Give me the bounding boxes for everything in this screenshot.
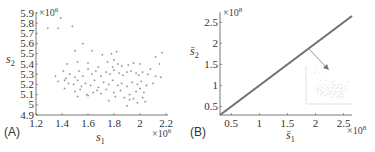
data-point <box>161 52 163 54</box>
data-point <box>127 64 129 66</box>
y-tick-label: 1 <box>213 79 219 91</box>
data-point <box>109 73 111 75</box>
data-point <box>57 27 59 29</box>
panel-b-x-label: s̄1 <box>286 128 295 144</box>
data-point <box>133 62 135 64</box>
data-point <box>120 90 122 92</box>
data-point <box>140 80 142 82</box>
inset-magnified-scatter <box>306 66 352 104</box>
y-tick-label: 0.5 <box>204 100 218 112</box>
data-point <box>144 101 146 103</box>
panel-a-scatter: 4.955.15.25.35.45.55.65.75.85.9 1.21.41.… <box>4 6 173 146</box>
data-point <box>77 61 79 63</box>
figure: 4.955.15.25.35.45.55.65.75.85.9 1.21.41.… <box>0 0 375 152</box>
data-point <box>91 73 93 75</box>
data-point <box>97 66 99 68</box>
data-point <box>97 86 99 88</box>
panel-a-y-label: s2 <box>6 52 15 68</box>
data-point <box>126 71 128 73</box>
data-point <box>82 75 84 77</box>
y-tick-label: 2 <box>213 37 219 49</box>
data-point <box>112 79 114 81</box>
data-point <box>146 84 148 86</box>
data-point <box>68 82 70 84</box>
annotation-arrow <box>308 48 327 68</box>
data-point <box>96 90 98 92</box>
data-point <box>92 92 94 94</box>
panel-a-x-label: s1 <box>96 130 105 146</box>
panel-b-y-multiplier: ×108 <box>223 6 243 18</box>
data-point <box>135 91 137 93</box>
data-point <box>90 84 92 86</box>
data-point <box>57 80 59 82</box>
data-point <box>121 65 123 67</box>
data-point <box>122 74 124 76</box>
data-point <box>77 96 79 98</box>
x-tick-label: 1.6 <box>81 117 95 129</box>
data-point <box>55 75 57 77</box>
data-point <box>94 79 96 81</box>
data-point <box>100 75 102 77</box>
data-point <box>84 82 86 84</box>
data-point <box>142 71 144 73</box>
data-point <box>65 77 67 79</box>
data-point <box>133 98 135 100</box>
y-tick-label: 5.3 <box>20 68 34 80</box>
x-tick-label: 2 <box>313 117 319 129</box>
data-point <box>105 71 107 73</box>
data-point <box>117 63 119 65</box>
panel-a-points <box>47 17 163 107</box>
panel-a-y-ticks: 4.955.15.25.35.45.55.65.75.85.9 <box>20 7 38 121</box>
data-point <box>129 99 131 101</box>
data-point <box>131 81 133 83</box>
x-tick-label: 2 <box>137 117 143 129</box>
data-point <box>87 62 89 64</box>
data-point <box>100 93 102 95</box>
data-point <box>149 68 151 70</box>
data-point <box>123 97 125 99</box>
data-point <box>77 79 79 81</box>
data-point <box>87 68 89 70</box>
data-point <box>159 63 161 65</box>
data-point <box>116 51 118 53</box>
data-point <box>139 87 141 89</box>
data-point <box>79 89 81 91</box>
y-tick-label: 5.9 <box>20 7 34 19</box>
x-tick-label: 1.8 <box>107 117 121 129</box>
data-point <box>112 66 114 68</box>
data-point <box>64 87 66 89</box>
data-point <box>74 76 76 78</box>
data-point <box>60 17 62 19</box>
data-point <box>74 50 76 52</box>
data-point <box>147 73 149 75</box>
data-point <box>105 89 107 91</box>
y-tick-label: 1.5 <box>204 58 218 70</box>
data-point <box>152 82 154 84</box>
data-point <box>66 63 68 65</box>
data-point <box>130 70 132 72</box>
data-point <box>82 43 84 45</box>
data-point <box>135 72 137 74</box>
panel-a-x-multiplier: ×106 <box>152 127 172 139</box>
panel-b-y-ticks: 0.511.522.5 <box>204 16 222 112</box>
panel-b-label: (B) <box>190 125 206 139</box>
x-tick-label: 1.2 <box>29 117 43 129</box>
data-point <box>103 81 105 83</box>
data-point <box>64 79 66 81</box>
data-point <box>142 97 144 99</box>
data-point <box>114 96 116 98</box>
data-point <box>117 84 119 86</box>
data-point <box>73 83 75 85</box>
data-point <box>118 72 120 74</box>
data-point <box>81 85 83 87</box>
panel-a-label: (A) <box>4 125 20 139</box>
data-point <box>126 85 128 87</box>
x-tick-label: 1.4 <box>55 117 69 129</box>
data-point <box>138 74 140 76</box>
x-tick-label: 1 <box>257 117 263 129</box>
data-point <box>71 25 73 27</box>
data-point <box>108 83 110 85</box>
data-point <box>108 100 110 102</box>
data-point <box>136 83 138 85</box>
data-point <box>69 73 71 75</box>
